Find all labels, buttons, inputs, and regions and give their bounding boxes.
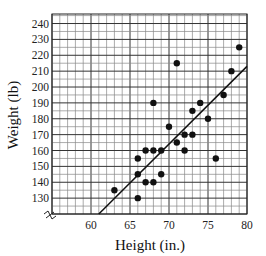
y-axis-label: Weight (lb)	[5, 81, 22, 149]
x-axis-ticks: 6065707580	[85, 219, 253, 231]
x-tick-label: 60	[85, 219, 97, 231]
data-point	[197, 100, 203, 106]
axis-break-icon	[44, 211, 56, 219]
y-tick-label: 190	[32, 97, 50, 109]
scatter-chart: 6065707580 13014015016017018019020021022…	[0, 0, 266, 256]
y-tick-label: 130	[32, 192, 50, 204]
y-tick-label: 230	[32, 33, 50, 45]
data-point	[228, 68, 234, 74]
data-point	[213, 155, 219, 161]
x-axis-label: Height (in.)	[115, 237, 185, 254]
data-point	[142, 147, 148, 153]
data-point	[150, 100, 156, 106]
y-axis-ticks: 130140150160170180190200210220230240	[32, 18, 50, 205]
x-tick-label: 65	[124, 219, 136, 231]
data-point	[135, 171, 141, 177]
y-tick-label: 240	[32, 18, 50, 30]
data-point	[135, 155, 141, 161]
y-tick-label: 160	[32, 145, 50, 157]
x-tick-label: 70	[163, 219, 175, 231]
y-tick-label: 220	[32, 49, 50, 61]
y-tick-label: 170	[32, 129, 50, 141]
x-tick-label: 80	[241, 219, 253, 231]
data-point	[142, 179, 148, 185]
y-tick-label: 150	[32, 160, 50, 172]
data-point	[158, 147, 164, 153]
data-point	[189, 131, 195, 137]
x-tick-label: 75	[202, 219, 214, 231]
data-point	[150, 179, 156, 185]
data-point	[174, 139, 180, 145]
data-point	[181, 147, 187, 153]
data-point	[181, 131, 187, 137]
data-point	[236, 44, 242, 50]
data-point	[174, 60, 180, 66]
y-tick-label: 210	[32, 65, 50, 77]
data-point	[111, 187, 117, 193]
data-point	[189, 108, 195, 114]
grid	[52, 14, 247, 214]
data-point	[158, 171, 164, 177]
y-tick-label: 140	[32, 176, 50, 188]
data-point	[205, 116, 211, 122]
trend-line	[99, 66, 247, 214]
y-tick-label: 180	[32, 113, 50, 125]
data-point	[150, 147, 156, 153]
data-point	[220, 92, 226, 98]
data-point	[166, 123, 172, 129]
y-tick-label: 200	[32, 81, 50, 93]
data-point	[135, 195, 141, 201]
